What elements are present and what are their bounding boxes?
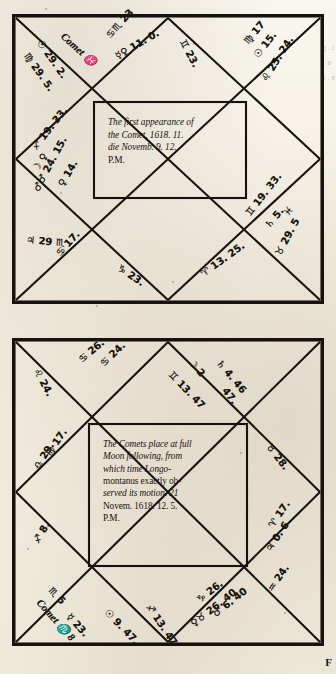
legend-line: The Comets place at full [103, 439, 192, 449]
horoscope-chart-full-moon-place: The Comets place at full Moon following,… [12, 338, 324, 646]
legend-line: The first appearance of [108, 117, 193, 127]
legend-line: P.M. [103, 513, 120, 523]
legend-line: montanus exactly ob- [103, 476, 181, 486]
horoscope-chart-first-appearance: The first appearance of the Comet, 1618.… [12, 14, 324, 304]
legend-line: the Comet, 1618. 11. [108, 130, 183, 140]
legend-line: P.M. [108, 155, 125, 165]
chart-2-center-legend: The Comets place at full Moon following,… [95, 431, 242, 559]
legend-line: which time Longo- [103, 464, 171, 474]
chart-1-center-legend: The first appearance of the Comet, 1618.… [100, 109, 240, 187]
legend-line: Novem. 1618. 12. 5. [103, 501, 177, 511]
verso-bleed-through-text: g . t c a a . e [322, 40, 336, 290]
legend-line: served its motion. 21 [103, 488, 178, 498]
legend-line: die Novemb. 9. 12. [108, 142, 177, 152]
signature-mark: F [325, 656, 332, 668]
legend-line: Moon following, from [103, 451, 182, 461]
